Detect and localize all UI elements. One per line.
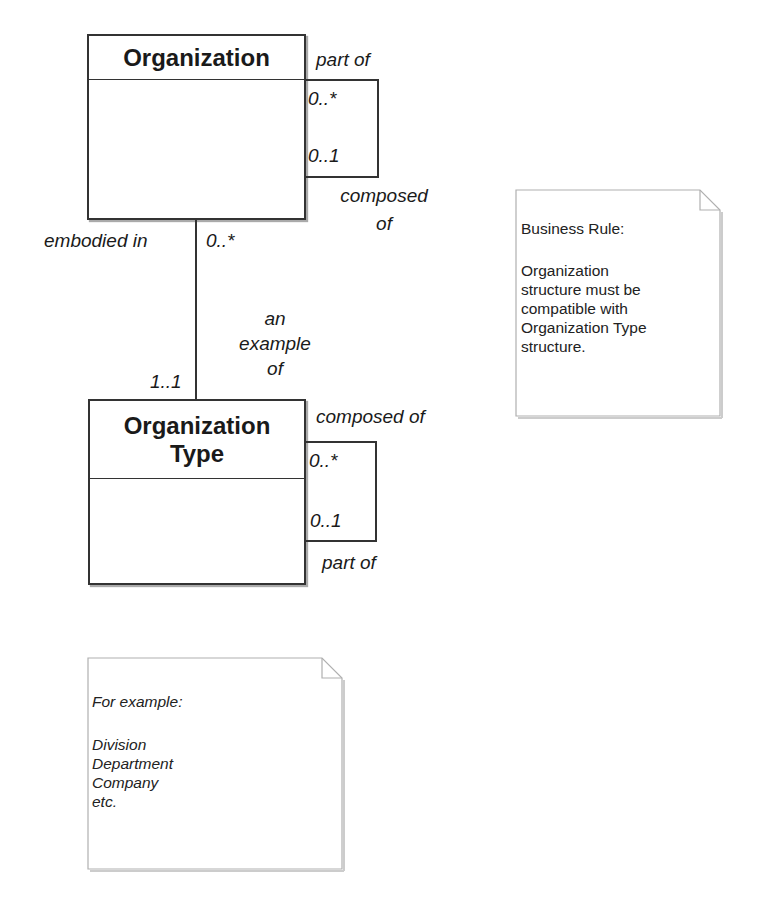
role-line: of [225,358,325,380]
role-line: composed [318,185,450,207]
org-self-role-composed-of: composed of [318,185,450,235]
note-business-rule: Business Rule: Organization structure mu… [515,189,723,419]
class-name-line: Organization [124,412,271,440]
role-line: example [225,333,325,355]
class-organization: Organization [87,34,306,220]
class-name-line: Type [170,440,224,468]
role-line: an [225,308,325,330]
org-self-role-part-of: part of [316,49,370,71]
org-to-type-association-line [195,219,197,400]
role-line: of [318,213,450,235]
note-business-rule-body: Organization structure must be compatibl… [521,261,647,356]
note-examples-body: Division Department Company etc. [92,735,173,811]
class-organization-name: Organization [89,36,304,80]
type-role-an-example-of: an example of [225,308,325,380]
org-multiplicity: 0..* [206,230,235,252]
type-self-multiplicity-top: 0..* [309,450,338,472]
type-self-role-composed-of: composed of [316,406,425,428]
note-examples: For example: Division Department Company… [87,657,347,873]
org-self-multiplicity-top: 0..* [308,88,337,110]
type-self-multiplicity-bottom: 0..1 [310,510,342,532]
org-role-embodied-in: embodied in [44,230,148,252]
type-multiplicity: 1..1 [150,371,182,393]
note-examples-title: For example: [92,692,182,711]
org-self-multiplicity-bottom: 0..1 [308,145,340,167]
class-name-text: Organization [123,44,270,72]
class-organization-type: Organization Type [88,399,306,585]
class-organization-type-name: Organization Type [90,401,304,479]
type-self-role-part-of: part of [322,552,376,574]
note-business-rule-title: Business Rule: [521,219,624,238]
